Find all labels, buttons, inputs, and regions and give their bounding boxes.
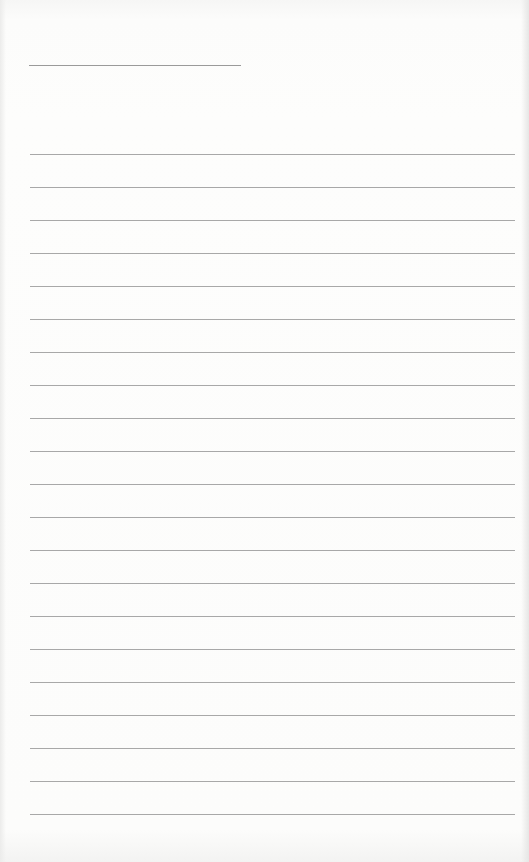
ruled-line [30, 484, 515, 485]
ruled-line [30, 616, 515, 617]
ruled-line [30, 583, 515, 584]
ruled-line [30, 220, 515, 221]
ruled-line [30, 517, 515, 518]
ruled-line [30, 286, 515, 287]
ruled-line [30, 682, 515, 683]
ruled-line [30, 253, 515, 254]
ruled-line [30, 451, 515, 452]
title-underline [29, 65, 241, 66]
page-edge-shadow-left [0, 0, 6, 862]
ruled-line [30, 319, 515, 320]
ruled-line [30, 352, 515, 353]
ruled-line [30, 187, 515, 188]
ruled-line [30, 781, 515, 782]
ruled-line [30, 154, 515, 155]
ruled-line [30, 385, 515, 386]
ruled-line [30, 418, 515, 419]
page-edge-shadow-right [521, 0, 529, 862]
lined-paper-page [0, 0, 529, 862]
ruled-line [30, 715, 515, 716]
ruled-line [30, 550, 515, 551]
ruled-line [30, 649, 515, 650]
ruled-line [30, 748, 515, 749]
ruled-line [30, 814, 515, 815]
